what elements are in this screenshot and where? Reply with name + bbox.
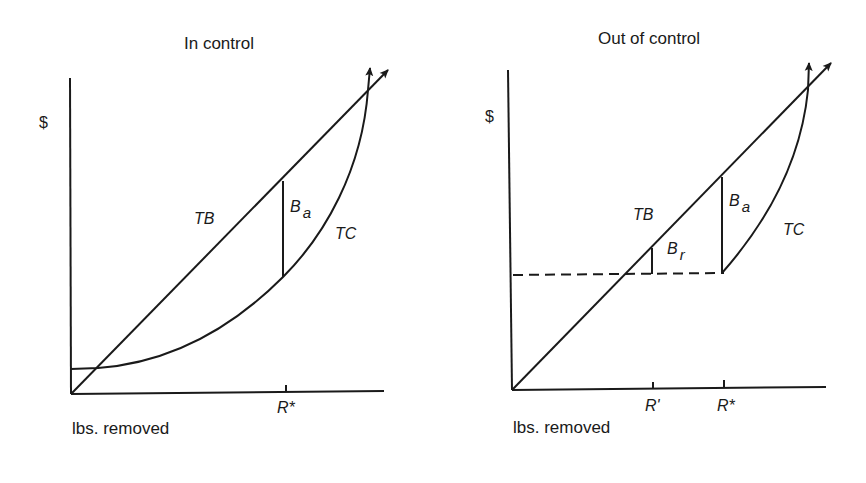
- left-y-axis: [70, 78, 71, 394]
- left-x-axis-label: lbs. removed: [72, 420, 169, 437]
- right-br-subscript: r: [680, 246, 685, 263]
- left-tc-curve: [71, 68, 370, 369]
- right-tc-curve: [722, 63, 809, 273]
- right-rstar-label: R*: [717, 398, 735, 414]
- right-tb-label: TB: [633, 207, 653, 223]
- right-ba-subscript: a: [742, 198, 750, 215]
- right-y-axis: [508, 70, 512, 390]
- right-tc-label: TC: [783, 222, 804, 238]
- right-x-axis: [512, 387, 826, 390]
- right-rprime-label: R': [645, 398, 660, 414]
- left-ba-label: Ba: [290, 199, 311, 215]
- right-ba-label: Ba: [729, 193, 750, 209]
- left-ba-main: B: [290, 198, 301, 215]
- left-tc-label: TC: [335, 226, 356, 242]
- right-br-main: B: [667, 240, 678, 257]
- diagram-canvas: [0, 0, 866, 483]
- right-x-axis-label: lbs. removed: [513, 419, 610, 436]
- left-tb-label: TB: [194, 211, 214, 227]
- left-y-axis-label: $: [39, 115, 48, 131]
- left-ba-subscript: a: [303, 204, 311, 221]
- right-y-axis-label: $: [485, 109, 494, 125]
- right-ba-main: B: [729, 192, 740, 209]
- right-dashed-line: [513, 273, 724, 275]
- left-rstar-label: R*: [277, 400, 295, 416]
- right-panel-title: Out of control: [598, 30, 700, 47]
- right-br-label: Br: [667, 241, 685, 257]
- left-x-axis: [71, 391, 384, 394]
- left-panel-title: In control: [184, 35, 254, 52]
